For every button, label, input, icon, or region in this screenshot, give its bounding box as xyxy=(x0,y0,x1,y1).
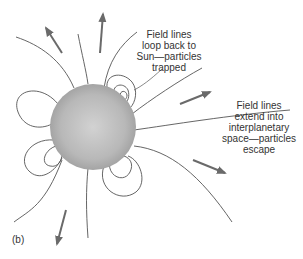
open-field-line xyxy=(16,37,74,88)
arrow-icon xyxy=(180,92,210,104)
annotation-line: space—particles xyxy=(214,133,303,144)
panel-label: (b) xyxy=(12,234,24,245)
arrow-icon xyxy=(193,160,225,173)
sun-magnetic-field-diagram: Field lines loop back to Sun—particles t… xyxy=(0,0,303,259)
annotation-line: Sun—particles xyxy=(126,51,212,62)
open-field-line xyxy=(78,34,88,84)
open-field-line xyxy=(87,168,89,238)
arrow-icon xyxy=(46,28,62,53)
annotation-line: Field lines xyxy=(214,100,303,111)
annotation-line: interplanetary xyxy=(214,122,303,133)
annotation-line: loop back to xyxy=(126,40,212,51)
sun xyxy=(50,84,136,170)
arrow-icon xyxy=(57,210,66,244)
annotation-line: escape xyxy=(214,144,303,155)
open-field-line xyxy=(132,68,202,114)
open-field-line xyxy=(14,160,62,222)
open-field-line xyxy=(134,146,232,222)
annotation-trapped: Field lines loop back to Sun—particles t… xyxy=(126,29,212,73)
annotation-line: Field lines xyxy=(126,29,212,40)
annotation-line: extend into xyxy=(214,111,303,122)
annotation-escape: Field lines extend into interplanetary s… xyxy=(214,100,303,155)
annotation-line: trapped xyxy=(126,62,212,73)
arrow-icon xyxy=(100,14,103,53)
